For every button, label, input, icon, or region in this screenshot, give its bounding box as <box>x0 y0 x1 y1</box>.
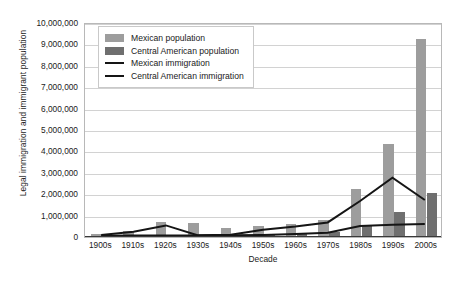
y-tick-label: 3,000,000 <box>41 169 78 177</box>
x-axis-tick-labels: 1900s1910s1920s1930s1940s1950s1960s1970s… <box>84 240 442 254</box>
legend-item-label: Central American immigration <box>131 72 244 81</box>
legend-item-label: Central American population <box>131 47 239 56</box>
y-tick-label: 8,000,000 <box>41 62 78 70</box>
x-axis-baseline <box>85 236 441 237</box>
x-tick-label: 1930s <box>187 240 210 250</box>
legend-item: Central American immigration <box>105 70 244 83</box>
x-tick-label: 2000s <box>414 240 437 250</box>
x-tick-label: 1990s <box>382 240 405 250</box>
x-tick-label: 1970s <box>317 240 340 250</box>
x-tick-label: 1940s <box>219 240 242 250</box>
chart-root: Legal immigration and immigrant populati… <box>0 0 449 281</box>
legend-line-marker <box>105 72 124 80</box>
legend-item: Central American population <box>105 45 244 58</box>
y-tick-label: 10,000,000 <box>36 19 78 27</box>
legend-item-label: Mexican immigration <box>131 59 210 68</box>
chart-legend: Mexican populationCentral American popul… <box>98 26 254 88</box>
y-tick-label: 2,000,000 <box>41 190 78 198</box>
legend-item: Mexican immigration <box>105 57 244 70</box>
legend-line-marker <box>105 59 124 67</box>
y-tick-label: 1,000,000 <box>41 211 78 219</box>
x-axis-title: Decade <box>84 254 442 264</box>
y-tick-label: 5,000,000 <box>41 126 78 134</box>
legend-swatch-marker <box>105 34 124 42</box>
legend-item: Mexican population <box>105 32 244 45</box>
line-mexican-immigration <box>101 178 425 236</box>
y-tick-label: 0 <box>73 233 78 241</box>
y-tick-label: 7,000,000 <box>41 83 78 91</box>
legend-swatch-marker <box>105 47 124 55</box>
y-axis-tick-labels: 01,000,0002,000,0003,000,0004,000,0005,0… <box>0 0 82 281</box>
legend-item-label: Mexican population <box>131 34 205 43</box>
x-tick-label: 1910s <box>122 240 145 250</box>
x-tick-label: 1980s <box>349 240 372 250</box>
y-tick-label: 6,000,000 <box>41 104 78 112</box>
x-tick-label: 1920s <box>154 240 177 250</box>
y-tick-label: 9,000,000 <box>41 40 78 48</box>
x-tick-label: 1900s <box>89 240 112 250</box>
x-tick-label: 1960s <box>284 240 307 250</box>
x-tick-label: 1950s <box>252 240 275 250</box>
y-tick-label: 4,000,000 <box>41 147 78 155</box>
